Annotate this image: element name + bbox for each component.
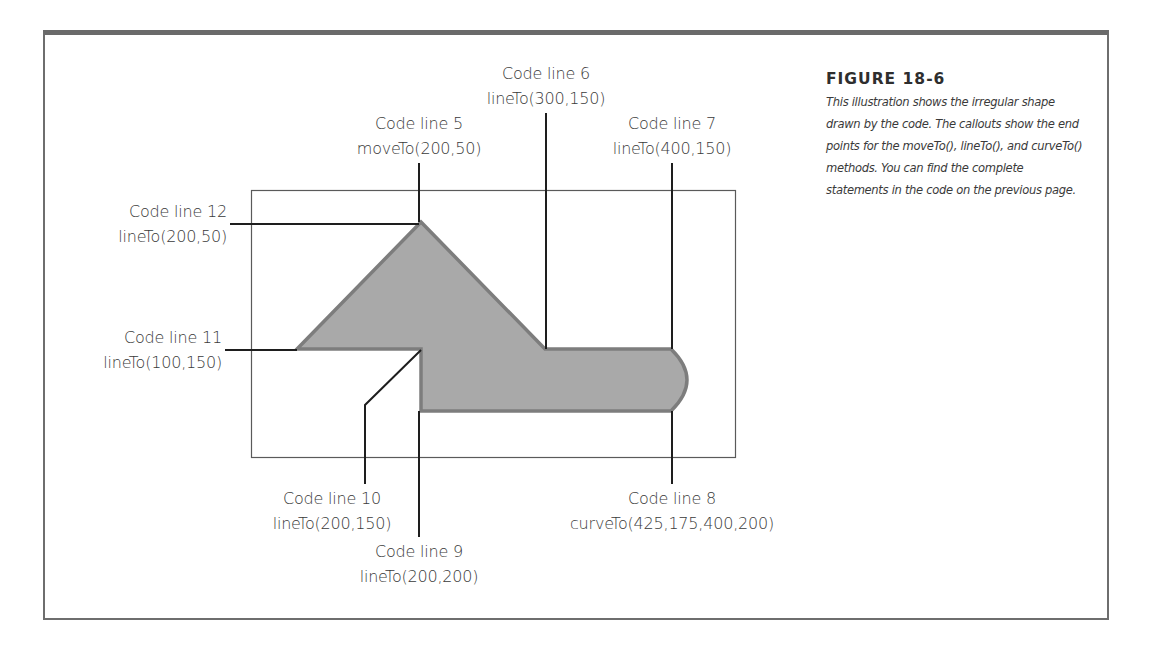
- callout-line-text: Code line 6: [487, 61, 606, 86]
- callout-call-text: lineTo(100,150): [60, 350, 222, 375]
- callout-line-text: Code line 10: [273, 486, 392, 511]
- figure-caption: FIGURE 18-6 This illustration shows the …: [826, 70, 1086, 201]
- callout-line-text: Code line 5: [357, 111, 481, 136]
- callout-line-10: [365, 350, 421, 484]
- callout-call-text: lineTo(200,200): [360, 564, 479, 589]
- callout-line-text: Code line 11: [60, 325, 222, 350]
- callout-line-text: Code line 7: [613, 111, 732, 136]
- callout-call-text: lineTo(200,50): [60, 224, 227, 249]
- figure-title: FIGURE 18-6: [826, 70, 1086, 88]
- callout-call-text: curveTo(425,175,400,200): [570, 511, 774, 536]
- callout-label-10: Code line 10 lineTo(200,150): [273, 486, 392, 536]
- callout-call-text: lineTo(400,150): [613, 136, 732, 161]
- callout-label-9: Code line 9 lineTo(200,200): [360, 539, 479, 589]
- callout-call-text: moveTo(200,50): [357, 136, 481, 161]
- callout-label-6: Code line 6 lineTo(300,150): [487, 61, 606, 111]
- callout-label-11: Code line 11 lineTo(100,150): [60, 325, 222, 375]
- callout-line-text: Code line 8: [570, 486, 774, 511]
- irregular-shape: [297, 222, 687, 411]
- callout-label-8: Code line 8 curveTo(425,175,400,200): [570, 486, 774, 536]
- callout-line-text: Code line 9: [360, 539, 479, 564]
- figure-caption-text: This illustration shows the irregular sh…: [826, 91, 1086, 201]
- callout-line-text: Code line 12: [60, 199, 227, 224]
- callout-call-text: lineTo(200,150): [273, 511, 392, 536]
- callout-label-5: Code line 5 moveTo(200,50): [357, 111, 481, 161]
- callout-call-text: lineTo(300,150): [487, 86, 606, 111]
- callout-label-12: Code line 12 lineTo(200,50): [60, 199, 227, 249]
- callout-label-7: Code line 7 lineTo(400,150): [613, 111, 732, 161]
